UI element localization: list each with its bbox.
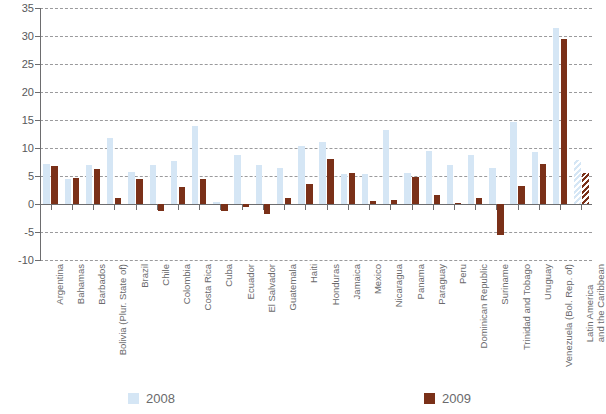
x-tick bbox=[178, 204, 179, 210]
bar-2008 bbox=[171, 161, 177, 204]
bar-2008 bbox=[532, 152, 538, 204]
x-category-label: Costa Rica bbox=[203, 264, 214, 310]
x-category-label: Trinidad and Tobago bbox=[522, 264, 533, 350]
bar-2008 bbox=[362, 174, 368, 204]
x-category-label: Jamaica bbox=[352, 264, 363, 299]
legend: 2008 2009 bbox=[0, 388, 597, 412]
x-tick bbox=[136, 204, 137, 210]
x-category-label: Venezuela (Bol. Rep. of) bbox=[564, 264, 575, 367]
x-axis-category-labels: ArgentinaBahamasBarbadosBolivia (Plur. S… bbox=[40, 262, 592, 382]
x-tick bbox=[496, 204, 497, 210]
bar-group bbox=[167, 8, 188, 260]
bar-2009 bbox=[518, 186, 524, 204]
bar-group bbox=[401, 8, 422, 260]
x-tick bbox=[51, 204, 52, 210]
bar-2008 bbox=[404, 173, 410, 204]
legend-swatch-2008-icon bbox=[128, 393, 139, 404]
bar-2009 bbox=[327, 159, 333, 204]
bar-2008 bbox=[574, 160, 580, 204]
bar-group bbox=[571, 8, 592, 260]
bar-2008 bbox=[86, 165, 92, 204]
x-category-label: Ecuador bbox=[246, 264, 257, 299]
bar-group bbox=[189, 8, 210, 260]
y-axis-label-30: 30 bbox=[8, 31, 34, 42]
bar-2009 bbox=[540, 164, 546, 204]
x-category-label: Barbados bbox=[97, 264, 108, 305]
y-axis-label--5: -5 bbox=[8, 227, 34, 238]
bar-2009 bbox=[434, 195, 440, 204]
x-tick bbox=[263, 204, 264, 210]
x-category-label: Guatemala bbox=[288, 264, 299, 310]
bar-group bbox=[210, 8, 231, 260]
x-category-label: Chile bbox=[161, 264, 172, 286]
x-tick bbox=[560, 204, 561, 210]
bar-group bbox=[550, 8, 571, 260]
x-tick bbox=[369, 204, 370, 210]
bar-group bbox=[507, 8, 528, 260]
bar-group bbox=[274, 8, 295, 260]
x-tick bbox=[242, 204, 243, 210]
x-tick bbox=[199, 204, 200, 210]
bar-2009 bbox=[51, 166, 57, 204]
bar-2009 bbox=[158, 204, 164, 211]
bar-group bbox=[146, 8, 167, 260]
bar-2008 bbox=[489, 168, 495, 204]
y-axis-label-5: 5 bbox=[8, 171, 34, 182]
plot-area: 35302520151050-5-10 bbox=[40, 8, 592, 260]
x-category-label: Dominican Republic bbox=[479, 264, 490, 348]
bar-group bbox=[443, 8, 464, 260]
x-category-label: Bolivia (Plur. State of) bbox=[118, 264, 129, 355]
x-tick bbox=[433, 204, 434, 210]
bar-2008 bbox=[65, 179, 71, 204]
bar-2009 bbox=[73, 178, 79, 204]
bar-2008 bbox=[192, 126, 198, 204]
x-category-label: Honduras bbox=[331, 264, 342, 305]
bar-2008 bbox=[150, 165, 156, 204]
bar-group bbox=[82, 8, 103, 260]
x-category-label: Haiti bbox=[309, 264, 320, 283]
y-axis-label-25: 25 bbox=[8, 59, 34, 70]
x-category-label: Colombia bbox=[182, 264, 193, 304]
bar-2009 bbox=[115, 198, 121, 204]
bar-2009 bbox=[306, 184, 312, 204]
legend-swatch-2009-icon bbox=[424, 393, 435, 404]
bar-2008 bbox=[256, 165, 262, 204]
bar-group bbox=[528, 8, 549, 260]
bar-2009 bbox=[264, 204, 270, 214]
bar-group bbox=[316, 8, 337, 260]
bar-group bbox=[486, 8, 507, 260]
y-axis-label--10: -10 bbox=[8, 255, 34, 266]
bar-2009 bbox=[391, 200, 397, 204]
x-tick bbox=[454, 204, 455, 210]
x-tick bbox=[220, 204, 221, 210]
bar-2008 bbox=[107, 138, 113, 204]
legend-label-2008: 2008 bbox=[146, 392, 175, 405]
x-category-label: Cuba bbox=[224, 264, 235, 287]
x-category-label: Uruguay bbox=[543, 264, 554, 300]
x-tick bbox=[93, 204, 94, 210]
gridline--10 bbox=[40, 260, 592, 261]
bar-2008 bbox=[468, 155, 474, 204]
bar-2009 bbox=[94, 169, 100, 204]
x-tick bbox=[157, 204, 158, 210]
bar-2008 bbox=[319, 142, 325, 204]
bar-2008 bbox=[553, 28, 559, 204]
bar-2009 bbox=[179, 187, 185, 204]
x-tick bbox=[72, 204, 73, 210]
bar-2008 bbox=[447, 165, 453, 204]
bar-2009 bbox=[497, 204, 503, 235]
x-tick bbox=[284, 204, 285, 210]
x-tick bbox=[539, 204, 540, 210]
bar-group bbox=[125, 8, 146, 260]
x-tick bbox=[348, 204, 349, 210]
bar-2009 bbox=[476, 198, 482, 204]
bar-2008 bbox=[277, 168, 283, 204]
bar-2009 bbox=[455, 203, 461, 204]
x-category-label: Suriname bbox=[500, 264, 511, 305]
x-category-label: Brazil bbox=[140, 264, 151, 288]
x-category-label: Latin America and the Caribbean bbox=[585, 264, 606, 342]
x-category-label: Peru bbox=[458, 264, 469, 284]
bar-2008 bbox=[383, 130, 389, 204]
bar-2009 bbox=[412, 177, 418, 204]
